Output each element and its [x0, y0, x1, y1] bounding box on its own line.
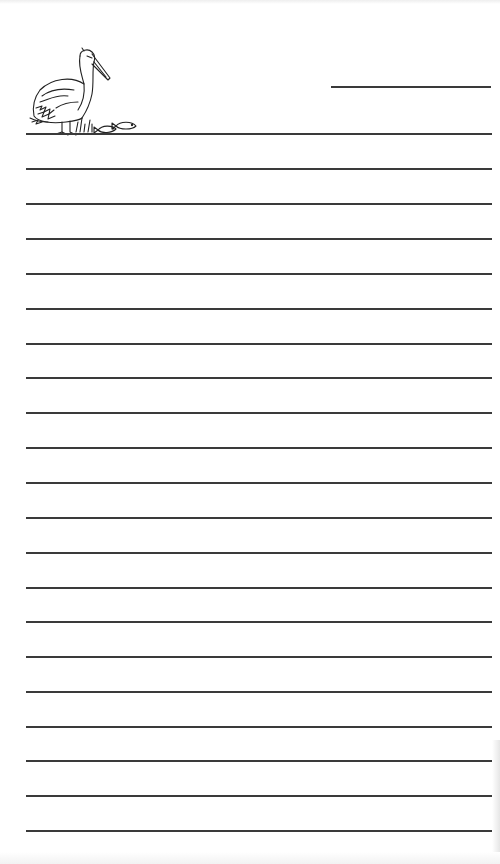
ruled-line — [26, 587, 492, 589]
ruled-line — [26, 760, 492, 762]
ruled-line — [26, 273, 492, 275]
ruled-line — [26, 795, 492, 797]
lined-paper-page — [0, 0, 500, 864]
ruled-line — [26, 133, 492, 135]
ruled-line — [26, 552, 492, 554]
ruled-line — [26, 691, 492, 693]
scan-bottom-edge — [0, 852, 500, 864]
ruled-line — [26, 656, 492, 658]
ruled-line — [26, 621, 492, 623]
scan-top-edge — [0, 0, 500, 4]
ruled-line — [26, 447, 492, 449]
ruled-line — [26, 168, 492, 170]
scan-right-edge — [492, 740, 500, 864]
pelican-with-fish-icon — [22, 44, 142, 140]
name-date-line — [331, 86, 491, 88]
ruled-line — [26, 830, 492, 832]
ruled-line — [26, 308, 492, 310]
ruled-line — [26, 726, 492, 728]
ruled-line — [26, 343, 492, 345]
ruled-line — [26, 203, 492, 205]
ruled-line — [26, 517, 492, 519]
ruled-line — [26, 238, 492, 240]
ruled-line — [26, 482, 492, 484]
ruled-line — [26, 377, 492, 379]
ruled-line — [26, 412, 492, 414]
